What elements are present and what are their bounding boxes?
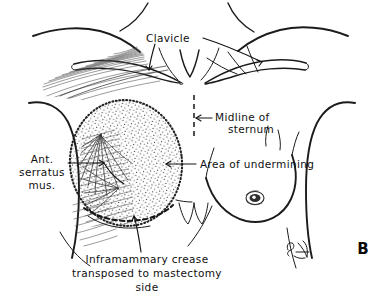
label-serratus-line2: serratus [19, 166, 65, 178]
label-area-of-undermining: Area of undermining [200, 158, 314, 170]
pectoral-fiber-hatching [37, 47, 168, 112]
panel-label-b: B [357, 240, 368, 258]
label-midline-line2: sternum [228, 123, 274, 135]
neck-and-shoulder-outline [33, 3, 348, 52]
clavicle-bones [72, 46, 309, 84]
label-clavicle: Clavicle [146, 32, 190, 44]
medical-illustration-figure: Clavicle Midline of sternum Ant. serratu… [0, 0, 387, 304]
caption-line3: side [136, 281, 159, 293]
label-serratus-line3: mus. [28, 179, 55, 191]
nipple-icon [246, 191, 264, 205]
right-breast-contour [188, 132, 299, 246]
anatomy-drawing-canvas: Clavicle Midline of sternum Ant. serratu… [0, 0, 387, 304]
xiphoid-costal-notch [176, 200, 208, 224]
label-serratus-line1: Ant. [31, 153, 54, 165]
caption-line2: transposed to mastectomy [72, 267, 222, 279]
label-midline-line1: Midline of [215, 111, 270, 123]
caption-line1: Inframammary crease [86, 253, 209, 265]
right-arm-and-torso-outline [306, 102, 355, 258]
artist-signature-mark [287, 241, 309, 258]
